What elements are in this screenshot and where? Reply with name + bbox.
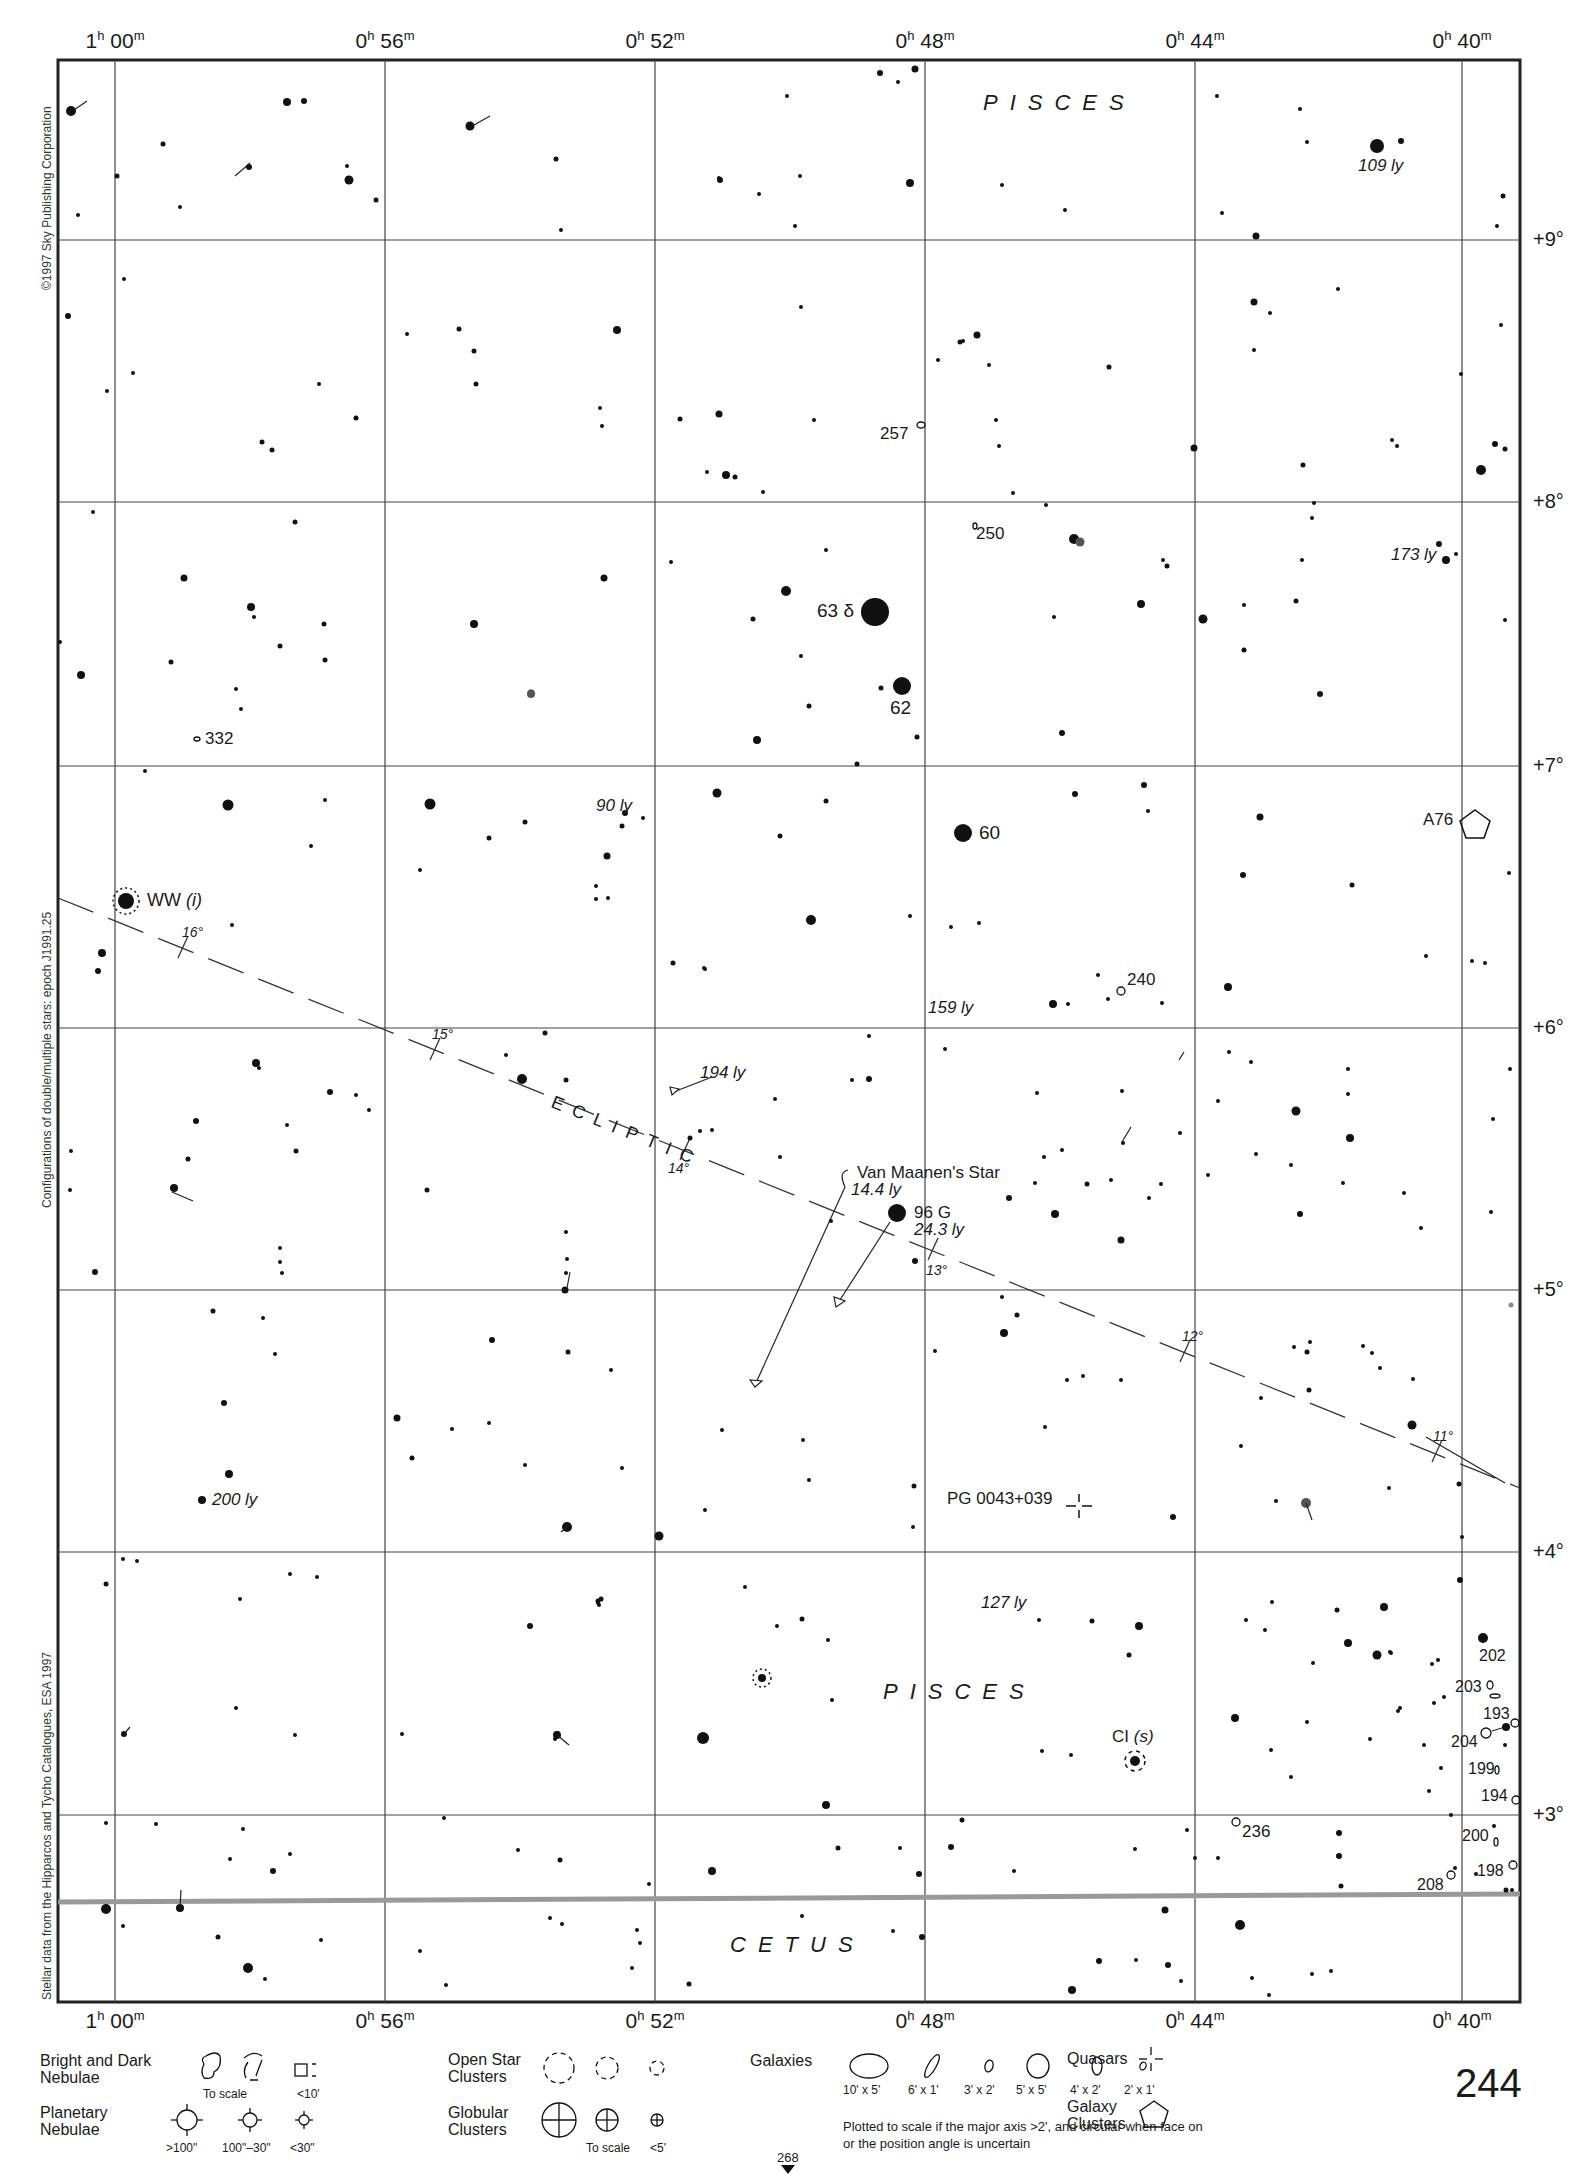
label-200: 200 [1462,1827,1489,1845]
label-332: 332 [205,729,233,749]
galaxy-cluster-icon [1137,2098,1171,2132]
legend-quasars-title: Quasars [1067,2050,1127,2067]
galaxy-cluster-a76 [1460,810,1490,838]
label-208: 208 [1417,1876,1444,1894]
chart-frame [58,60,1520,2002]
ecliptic-tick-14: 14° [668,1160,689,1176]
legend-nebulae-small: <10' [297,2087,320,2101]
ecliptic-ticks [178,936,1442,1462]
ecliptic-tick-15: 15° [432,1026,453,1042]
label-240: 240 [1127,970,1155,990]
quasar-icon [1136,2044,1166,2074]
star-ci [1130,1756,1140,1766]
page-number: 244 [1455,2061,1522,2106]
star-63-delta [861,598,889,626]
label-90ly: 90 ly [596,796,632,816]
globular-cluster-icons [535,2098,685,2142]
label-199: 199 [1468,1760,1495,1778]
label-159ly: 159 ly [928,998,973,1018]
legend-nebulae-title: Bright and Dark Nebulae [40,2052,170,2086]
label-127ly: 127 ly [981,1593,1026,1613]
label-96g-distance: 24.3 ly [914,1220,964,1240]
constellation-pisces-mid: PISCES [883,1679,1036,1705]
star-chart [0,0,1593,2175]
legend-globular-toscale: To scale [586,2141,630,2155]
label-60: 60 [979,822,1000,844]
legend-planetary-cap-1: 100"–30" [222,2141,271,2155]
legend-galaxy-clusters-title: Galaxy Clusters [1067,2098,1137,2132]
label-200ly: 200 ly [212,1490,257,1510]
proper-motion-arrows [670,1077,890,1387]
ecliptic-tick-12: 12° [1182,1328,1203,1344]
legend-galaxy-size-5: 2' x 1' [1124,2083,1155,2097]
label-a76: A76 [1423,810,1453,830]
constellation-boundary [58,1894,1520,1902]
field-stars [58,66,1514,1998]
star-193 [1502,1723,1510,1731]
planetary-nebula-icons [160,2100,340,2144]
legend-galaxy-size-4: 4' x 2' [1070,2083,1101,2097]
label-ww: WW (i) [147,890,202,911]
label-van-maanens-distance: 14.4 ly [851,1180,901,1200]
label-203: 203 [1455,1678,1482,1696]
label-257: 257 [880,424,908,444]
label-204: 204 [1451,1733,1478,1751]
label-ci: CI (s) [1112,1727,1154,1747]
constellation-cetus: CETUS [730,1932,865,1958]
double-star-ticks [74,101,1505,1907]
legend-galaxy-size-0: 10' x 5' [843,2083,880,2097]
arrow-down-icon[interactable] [781,2163,795,2175]
label-194: 194 [1481,1787,1508,1805]
label-236: 236 [1242,1822,1270,1842]
dec-gridlines [58,240,1520,1815]
ecliptic-tick-13: 13° [926,1262,947,1278]
legend-nebulae-toscale: To scale [203,2087,247,2101]
ecliptic-line [58,898,1520,1488]
label-198: 198 [1477,1862,1504,1880]
label-63-delta: 63 δ [817,600,854,622]
label-193: 193 [1483,1705,1510,1723]
ecliptic-tick-11: 11° [1433,1428,1453,1444]
star-202 [1478,1633,1488,1643]
star-ww [118,893,134,909]
legend-globular-small: <5' [650,2141,666,2155]
legend-planetary-cap-2: <30" [290,2141,315,2155]
label-202: 202 [1479,1647,1506,1665]
label-173ly: 173 ly [1391,545,1436,565]
legend-open-clusters-title: Open Star Clusters [448,2051,528,2085]
legend-galaxy-size-2: 3' x 2' [964,2083,995,2097]
star-96g [888,1204,906,1222]
star-var-pisces [758,1674,766,1682]
legend-planetary-title: Planetary Nebulae [40,2104,120,2138]
legend-galaxy-size-3: 5' x 5' [1016,2083,1047,2097]
quasar-pg0043 [1066,1494,1092,1518]
legend-globular-title: Globular Clusters [448,2104,528,2138]
constellation-pisces-top: PISCES [983,90,1136,116]
label-109ly: 109 ly [1358,156,1403,176]
star-60 [954,824,972,842]
label-194ly: 194 ly [700,1063,745,1083]
legend-galaxy-size-1: 6' x 1' [908,2083,939,2097]
label-250: 250 [976,524,1004,544]
star-109ly [1370,139,1384,153]
label-62: 62 [890,697,911,719]
star-62 [893,677,911,695]
open-cluster-icons [535,2048,685,2088]
legend-planetary-cap-0: >100" [166,2141,197,2155]
nebula-icons [170,2048,320,2088]
galaxies [194,422,1520,1879]
label-pg0043: PG 0043+039 [947,1489,1052,1509]
ecliptic-tick-16: 16° [182,924,203,940]
ra-gridlines [115,60,1462,2002]
legend-galaxies-title: Galaxies [750,2052,812,2069]
